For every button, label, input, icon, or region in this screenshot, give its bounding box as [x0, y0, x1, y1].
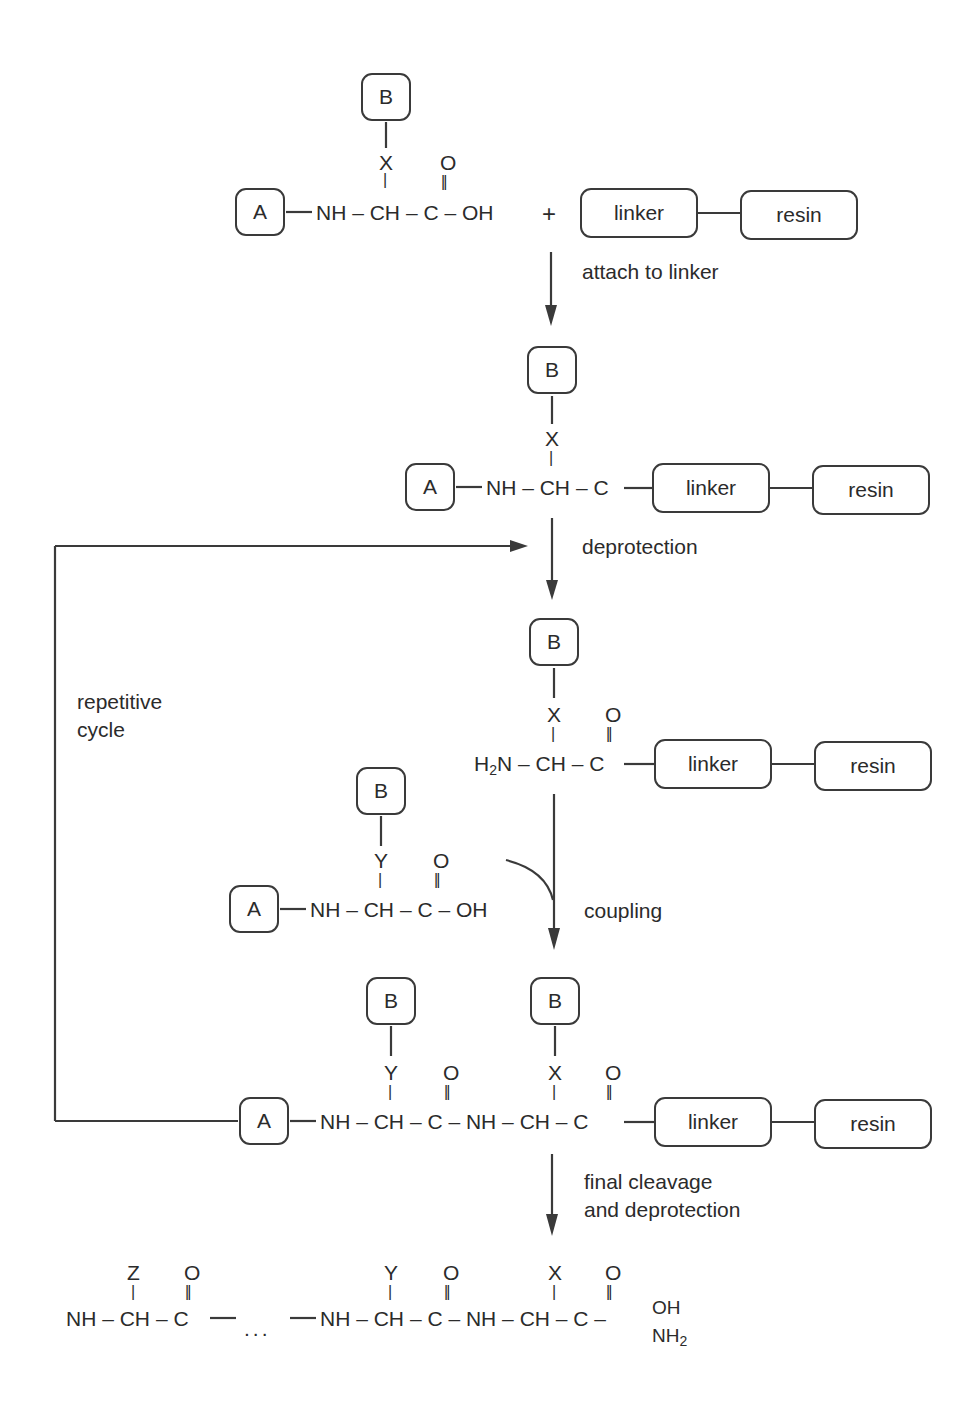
free-amine-chain: H2N – CH – C — [474, 753, 604, 777]
linker-box: linker — [654, 739, 772, 789]
bond-vertical: | — [552, 1084, 556, 1100]
double-bond: || — [441, 174, 445, 190]
bond-vertical: | — [551, 726, 555, 742]
double-bond: || — [606, 726, 610, 742]
step-label-coupling: coupling — [584, 897, 662, 925]
double-bond: || — [444, 1284, 448, 1300]
bond-vertical: | — [383, 172, 387, 188]
resin-box: resin — [812, 465, 930, 515]
resin-box: resin — [814, 1099, 932, 1149]
backbone-chain: NH – CH – C – OH — [310, 899, 487, 920]
n-protecting-group-box: A — [229, 885, 279, 933]
terminal-oh: OH — [652, 1298, 681, 1317]
resin-box: resin — [740, 190, 858, 240]
linker-box: linker — [654, 1097, 772, 1147]
double-bond: || — [185, 1284, 189, 1300]
bond-vertical: | — [549, 450, 553, 466]
carbonyl-oxygen: O — [184, 1262, 200, 1283]
amide-nh: NH – CH – C – OH — [316, 202, 493, 223]
side-chain-y: Y — [384, 1062, 398, 1083]
cycle-label: repetitivecycle — [77, 688, 162, 745]
side-chain-y: Y — [384, 1262, 398, 1283]
bond-vertical: | — [378, 872, 382, 888]
side-chain-x: X — [547, 704, 561, 725]
plus-sign: + — [542, 202, 556, 226]
side-chain-x: X — [545, 428, 559, 449]
side-chain-y: Y — [374, 850, 388, 871]
step-label-final: final cleavageand deprotection — [584, 1168, 740, 1225]
ellipsis: ... — [244, 1318, 271, 1339]
side-chain-protecting-group-box: B — [530, 977, 580, 1025]
carbonyl-oxygen: O — [443, 1062, 459, 1083]
side-chain-x: X — [379, 152, 393, 173]
step-label-attach: attach to linker — [582, 258, 719, 286]
carbonyl-oxygen: O — [605, 1262, 621, 1283]
side-chain-protecting-group-box: B — [529, 618, 579, 666]
bond-vertical: | — [131, 1284, 135, 1300]
resin-box: resin — [814, 741, 932, 791]
bond-vertical: | — [552, 1284, 556, 1300]
side-chain-z: Z — [127, 1262, 140, 1283]
backbone-chain: NH – CH – C — [486, 477, 609, 498]
side-chain-protecting-group-box: B — [356, 767, 406, 815]
linker-box: linker — [580, 188, 698, 238]
bond-vertical: | — [388, 1284, 392, 1300]
carbonyl-oxygen: O — [443, 1262, 459, 1283]
double-bond: || — [444, 1084, 448, 1100]
carbonyl-oxygen: O — [440, 152, 456, 173]
side-chain-protecting-group-box: B — [366, 977, 416, 1025]
c-terminal-chain: NH – CH – C – NH – CH – C – — [320, 1308, 606, 1329]
bond-vertical: | — [388, 1084, 392, 1100]
side-chain-x: X — [548, 1062, 562, 1083]
side-chain-protecting-group-box: B — [361, 73, 411, 121]
double-bond: || — [606, 1084, 610, 1100]
double-bond: || — [606, 1284, 610, 1300]
n-terminal-chain: NH – CH – C — [66, 1308, 189, 1329]
n-protecting-group-box: A — [405, 463, 455, 511]
step-label-deprotection: deprotection — [582, 533, 698, 561]
dipeptide-chain: NH – CH – C – NH – CH – C — [320, 1111, 589, 1132]
double-bond: || — [434, 872, 438, 888]
linker-box: linker — [652, 463, 770, 513]
carbonyl-oxygen: O — [605, 704, 621, 725]
n-protecting-group-box: A — [239, 1097, 289, 1145]
carbonyl-oxygen: O — [605, 1062, 621, 1083]
side-chain-x: X — [548, 1262, 562, 1283]
side-chain-protecting-group-box: B — [527, 346, 577, 394]
terminal-nh2: NH2 — [652, 1326, 687, 1348]
n-protecting-group-box: A — [235, 188, 285, 236]
carbonyl-oxygen: O — [433, 850, 449, 871]
